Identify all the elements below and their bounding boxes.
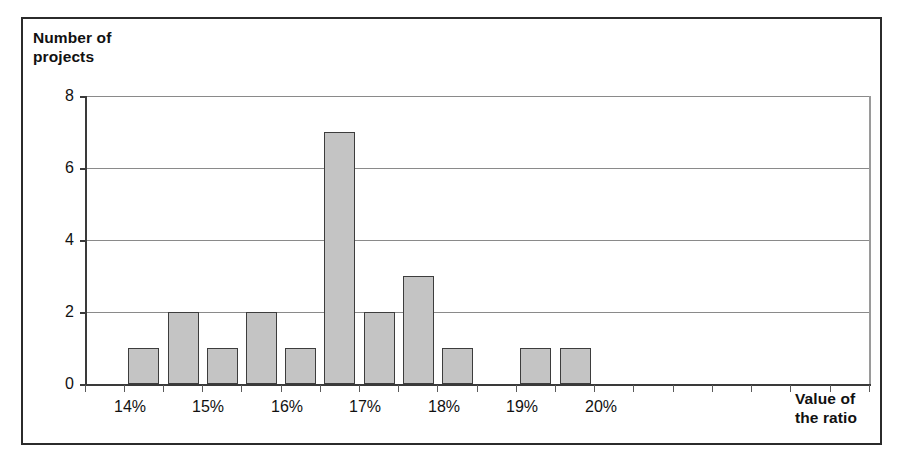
y-tick-mark-8 [80, 96, 87, 98]
x-tick-mark-15 [673, 385, 674, 392]
bar-14.5 [128, 348, 159, 384]
x-tick-label-17: 17% [335, 398, 395, 416]
y-tick-label-0: 0 [44, 375, 74, 393]
y-tick-mark-2 [80, 312, 87, 314]
x-tick-label-19: 19% [492, 398, 552, 416]
x-tick-mark-14 [633, 385, 634, 392]
bar-18.5 [442, 348, 473, 384]
bar-20.0 [560, 348, 591, 384]
bar-17.0 [324, 132, 355, 384]
y-tick-label-8: 8 [44, 87, 74, 105]
y-tick-label-2: 2 [44, 303, 74, 321]
bar-19.5 [520, 348, 551, 384]
x-tick-mark-1 [124, 385, 125, 392]
y-tick-label-6: 6 [44, 159, 74, 177]
plot-right-edge [869, 96, 871, 385]
x-tick-mark-19 [830, 385, 831, 392]
x-tick-mark-2 [163, 385, 164, 392]
x-tick-mark-10 [477, 385, 478, 392]
gridline-8 [85, 96, 870, 97]
histogram-figure: Number of projects Value of the ratio 8 … [0, 0, 906, 471]
x-tick-mark-18 [790, 385, 791, 392]
gridline-6 [85, 168, 870, 169]
x-axis-title: Value of the ratio [795, 389, 900, 427]
x-tick-mark-3 [202, 385, 203, 392]
bar-17.5 [364, 312, 395, 384]
x-tick-label-18: 18% [414, 398, 474, 416]
x-tick-mark-0 [85, 385, 86, 392]
x-tick-mark-12 [555, 385, 556, 392]
y-tick-label-4: 4 [44, 231, 74, 249]
x-tick-mark-20 [869, 385, 870, 392]
bar-16.5 [285, 348, 316, 384]
plot-area [85, 96, 870, 384]
x-tick-mark-9 [437, 385, 438, 392]
gridline-4 [85, 240, 870, 241]
x-tick-mark-16 [712, 385, 713, 392]
y-tick-mark-4 [80, 240, 87, 242]
x-tick-mark-7 [359, 385, 360, 392]
x-tick-mark-13 [594, 385, 595, 392]
x-tick-mark-17 [751, 385, 752, 392]
x-tick-mark-8 [398, 385, 399, 392]
bar-18.0 [403, 276, 434, 384]
x-tick-mark-11 [516, 385, 517, 392]
bar-15.5 [207, 348, 238, 384]
y-tick-mark-6 [80, 168, 87, 170]
gridline-2 [85, 312, 870, 313]
bar-16.0 [246, 312, 277, 384]
y-axis-title: Number of projects [33, 28, 203, 66]
x-tick-mark-6 [320, 385, 321, 392]
x-tick-label-14: 14% [100, 398, 160, 416]
x-tick-label-15: 15% [178, 398, 238, 416]
x-tick-label-16: 16% [257, 398, 317, 416]
x-tick-label-20: 20% [571, 398, 631, 416]
x-tick-mark-4 [241, 385, 242, 392]
x-tick-mark-5 [281, 385, 282, 392]
bar-15.0 [168, 312, 199, 384]
